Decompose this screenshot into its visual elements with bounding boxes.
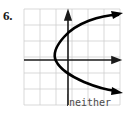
answer-pen-stroke xyxy=(67,94,68,106)
problem-number-label: 6. xyxy=(3,9,12,22)
answer-text: neither xyxy=(69,97,111,108)
curve-arrowhead-lower xyxy=(111,87,123,95)
curve-arrowhead-upper xyxy=(111,11,123,19)
parabola-curve xyxy=(24,9,120,105)
worksheet-problem-card: 6. xyxy=(0,0,127,113)
graph-plot-area xyxy=(24,9,120,105)
curve-arrowheads xyxy=(111,11,123,95)
parabola-path xyxy=(55,15,118,91)
